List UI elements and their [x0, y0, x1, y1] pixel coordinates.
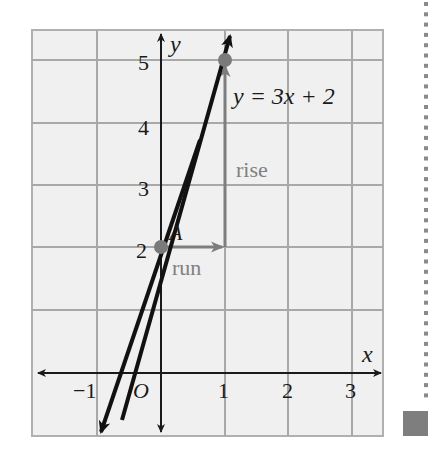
x-axis-label: x — [361, 341, 373, 367]
y-tick-4: 4 — [138, 115, 149, 140]
x-tick-1: 1 — [218, 378, 229, 403]
y-tick-2: 2 — [136, 238, 147, 263]
point-A-label: A — [167, 220, 183, 245]
equation-label: y = 3x + 2 — [231, 83, 335, 109]
sidebar-marker — [403, 411, 428, 436]
run-label: run — [172, 255, 201, 280]
dotted-rule — [424, 2, 428, 397]
x-tick-2: 2 — [282, 378, 293, 403]
point-A — [154, 240, 168, 254]
y-axis-label: y — [168, 31, 181, 57]
origin-label: O — [133, 378, 149, 403]
point-B — [218, 53, 232, 67]
x-tick-neg1: −1 — [73, 378, 96, 403]
y-tick-5: 5 — [138, 50, 149, 75]
rise-label: rise — [236, 157, 268, 182]
figure: y x O 5 4 3 2 −1 1 2 3 A run rise y = 3x… — [0, 0, 437, 467]
y-tick-3: 3 — [138, 176, 149, 201]
x-tick-3: 3 — [345, 378, 356, 403]
